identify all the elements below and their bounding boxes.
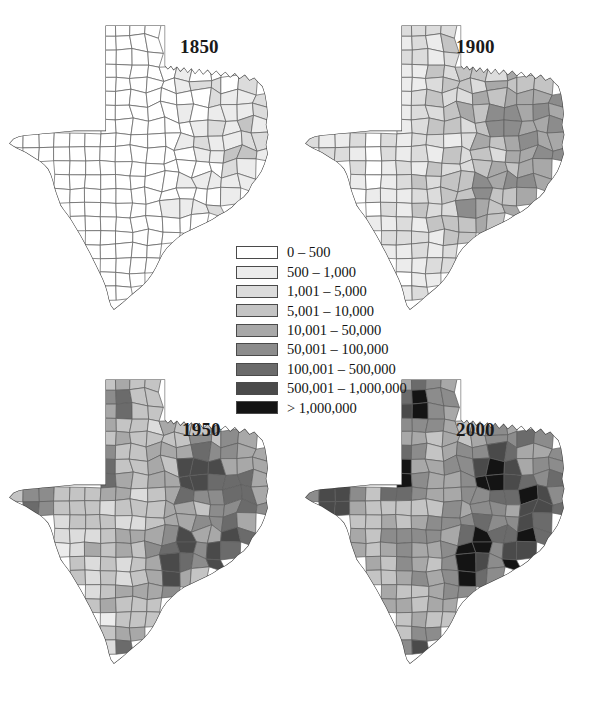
legend-swatch bbox=[236, 324, 278, 337]
legend-label: 10,001 – 50,000 bbox=[287, 323, 381, 338]
legend-swatch bbox=[236, 285, 278, 298]
legend-row: 500,001 – 1,000,000 bbox=[236, 379, 436, 398]
legend-row: 5,001 – 10,000 bbox=[236, 301, 436, 320]
legend-swatch bbox=[236, 343, 278, 356]
legend-label: 100,001 – 500,000 bbox=[287, 362, 396, 377]
year-label-1850: 1850 bbox=[180, 36, 219, 58]
year-label-1950: 1950 bbox=[182, 419, 221, 441]
legend-row: > 1,000,000 bbox=[236, 398, 436, 417]
legend-swatch bbox=[236, 246, 278, 259]
legend-swatch bbox=[236, 401, 278, 414]
year-label-2000: 2000 bbox=[456, 419, 495, 441]
legend-label: 50,001 – 100,000 bbox=[287, 342, 389, 357]
legend-row: 10,001 – 50,000 bbox=[236, 321, 436, 340]
legend-swatch bbox=[236, 304, 278, 317]
legend-swatch bbox=[236, 382, 278, 395]
year-label-1900: 1900 bbox=[456, 36, 495, 58]
legend-label: 0 – 500 bbox=[287, 245, 331, 260]
figure-canvas: 1850 1900 1950 2000 0 – 500500 – 1,0001,… bbox=[0, 0, 591, 708]
legend-label: > 1,000,000 bbox=[287, 401, 357, 416]
legend-row: 0 – 500 bbox=[236, 243, 436, 262]
population-legend: 0 – 500500 – 1,0001,001 – 5,0005,001 – 1… bbox=[236, 243, 436, 418]
legend-label: 5,001 – 10,000 bbox=[287, 304, 374, 319]
legend-label: 500 – 1,000 bbox=[287, 265, 356, 280]
legend-row: 1,001 – 5,000 bbox=[236, 282, 436, 301]
legend-label: 1,001 – 5,000 bbox=[287, 284, 367, 299]
legend-row: 100,001 – 500,000 bbox=[236, 359, 436, 378]
legend-label: 500,001 – 1,000,000 bbox=[287, 381, 407, 396]
legend-row: 50,001 – 100,000 bbox=[236, 340, 436, 359]
legend-swatch bbox=[236, 363, 278, 376]
legend-swatch bbox=[236, 266, 278, 279]
legend-row: 500 – 1,000 bbox=[236, 262, 436, 281]
